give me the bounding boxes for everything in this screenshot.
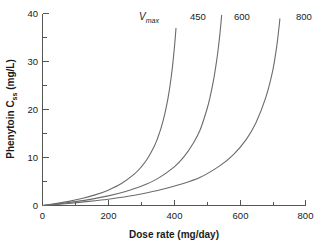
y-tick-label-40: 40 — [27, 8, 38, 19]
y-tick-label-0: 0 — [33, 200, 38, 211]
y-axis-title-main: Phenytoin C — [5, 100, 16, 158]
curve-label-450: 450 — [190, 11, 206, 22]
y-axis-title-sub: ss — [11, 92, 18, 100]
x-tick-label-0: 0 — [40, 210, 45, 221]
x-tick-label-800: 800 — [298, 210, 314, 221]
y-tick-label-30: 30 — [27, 56, 38, 67]
chart-canvas: 0 10 20 30 40 0 200 400 600 800 — [0, 0, 329, 244]
x-tick-label-400: 400 — [167, 210, 183, 221]
curve-label-600: 600 — [234, 11, 250, 22]
chart-figure: 0 10 20 30 40 0 200 400 600 800 — [0, 0, 329, 244]
x-tick-label-200: 200 — [101, 210, 117, 221]
y-tick-label-20: 20 — [27, 104, 38, 115]
x-axis-title: Dose rate (mg/day) — [129, 229, 219, 240]
vmax-label-sub: max — [146, 17, 160, 24]
curve-label-800: 800 — [296, 11, 312, 22]
chart-background — [0, 0, 329, 244]
y-axis-title-tail: (mg/L) — [5, 59, 16, 92]
y-tick-label-10: 10 — [27, 152, 38, 163]
x-tick-label-600: 600 — [233, 210, 249, 221]
